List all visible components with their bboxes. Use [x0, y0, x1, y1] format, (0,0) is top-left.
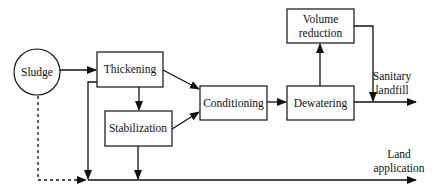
- output-land-application-label-1: Land: [387, 148, 411, 160]
- node-sludge: Sludge: [14, 49, 60, 95]
- node-stabilization-label: Stabilization: [109, 122, 167, 134]
- edge-thickening-land: [88, 82, 97, 179]
- edge-thickening-conditioning: [163, 70, 199, 89]
- node-sludge-label: Sludge: [21, 66, 53, 79]
- output-land-application-label-2: application: [373, 162, 424, 175]
- node-conditioning-label: Conditioning: [203, 97, 264, 110]
- output-sanitary-landfill-label-1: Sanitary: [373, 70, 412, 83]
- flow-diagram: Sludge Thickening Stabilization Conditio…: [0, 0, 442, 189]
- node-volume-reduction-label-2: reduction: [299, 27, 343, 39]
- edge-stabilization-conditioning: [172, 112, 199, 129]
- output-sanitary-landfill-label-2: landfill: [375, 84, 408, 96]
- node-thickening-label: Thickening: [104, 63, 157, 76]
- node-dewatering: Dewatering: [287, 86, 354, 120]
- edge-sludge-land-dashed: [38, 96, 86, 180]
- edge-volume-reduction-landfill: [354, 26, 373, 101]
- node-volume-reduction-label-1: Volume: [303, 13, 339, 25]
- node-dewatering-label: Dewatering: [294, 97, 348, 110]
- node-thickening: Thickening: [97, 52, 163, 87]
- node-conditioning: Conditioning: [200, 86, 267, 120]
- node-stabilization: Stabilization: [105, 111, 172, 146]
- node-volume-reduction: Volume reduction: [287, 9, 354, 43]
- output-sanitary-landfill: Sanitary landfill: [373, 70, 412, 96]
- output-land-application: Land application: [373, 148, 424, 175]
